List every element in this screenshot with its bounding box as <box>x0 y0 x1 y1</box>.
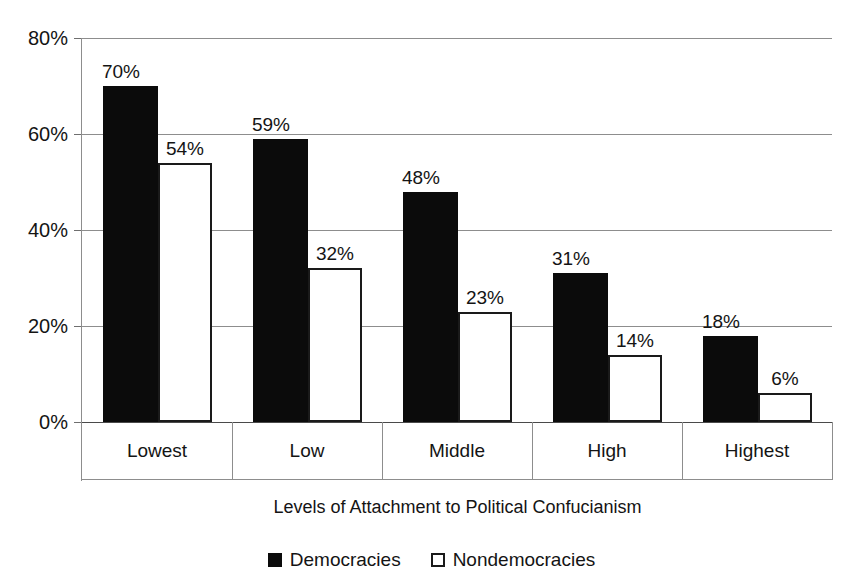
y-tick-label-60: 60% <box>28 124 68 144</box>
category-label-low: Low <box>232 440 382 462</box>
value-label-nondemocracies-middle: 23% <box>439 288 531 307</box>
bar-nondemocracies-low <box>308 268 362 422</box>
legend-item-democracies: Democracies <box>268 550 401 569</box>
filled-square-icon <box>268 553 282 567</box>
y-tick-label-80: 80% <box>28 28 68 48</box>
y-tick-label-0: 0% <box>39 412 68 432</box>
category-label-lowest: Lowest <box>82 440 232 462</box>
bar-democracies-low <box>253 139 308 422</box>
legend-label-nondemocracies: Nondemocracies <box>453 550 596 569</box>
bar-democracies-middle <box>403 192 458 422</box>
legend-label-democracies: Democracies <box>290 550 401 569</box>
legend-item-nondemocracies: Nondemocracies <box>431 550 596 569</box>
y-tick-label-40: 40% <box>28 220 68 240</box>
bar-chart: 80% 60% 40% 20% 0% <box>0 0 863 587</box>
category-frame-right <box>832 422 833 480</box>
x-axis-title: Levels of Attachment to Political Confuc… <box>82 496 833 518</box>
value-label-nondemocracies-high: 14% <box>589 331 681 350</box>
gridline-baseline-0 <box>82 422 832 423</box>
category-label-highest: Highest <box>682 440 832 462</box>
gridline-80 <box>82 38 832 39</box>
value-label-nondemocracies-low: 32% <box>289 244 381 263</box>
value-label-democracies-middle: 48% <box>375 168 467 187</box>
bar-democracies-lowest <box>103 86 158 422</box>
value-label-nondemocracies-highest: 6% <box>739 369 831 388</box>
value-label-democracies-highest: 18% <box>675 312 767 331</box>
gridline-60 <box>82 134 832 135</box>
category-label-middle: Middle <box>382 440 532 462</box>
y-tick-label-20: 20% <box>28 316 68 336</box>
bar-nondemocracies-middle <box>458 312 512 422</box>
plot-area <box>82 38 832 422</box>
bar-nondemocracies-high <box>608 355 662 422</box>
outlined-square-icon <box>431 553 445 567</box>
value-label-nondemocracies-lowest: 54% <box>139 139 231 158</box>
category-frame-bottom <box>82 479 833 480</box>
value-label-democracies-high: 31% <box>525 249 617 268</box>
chart-legend: Democracies Nondemocracies <box>0 550 863 569</box>
bar-nondemocracies-lowest <box>158 163 212 422</box>
value-label-democracies-lowest: 70% <box>75 62 167 81</box>
bar-nondemocracies-highest <box>758 393 812 422</box>
category-label-high: High <box>532 440 682 462</box>
value-label-democracies-low: 59% <box>225 115 317 134</box>
